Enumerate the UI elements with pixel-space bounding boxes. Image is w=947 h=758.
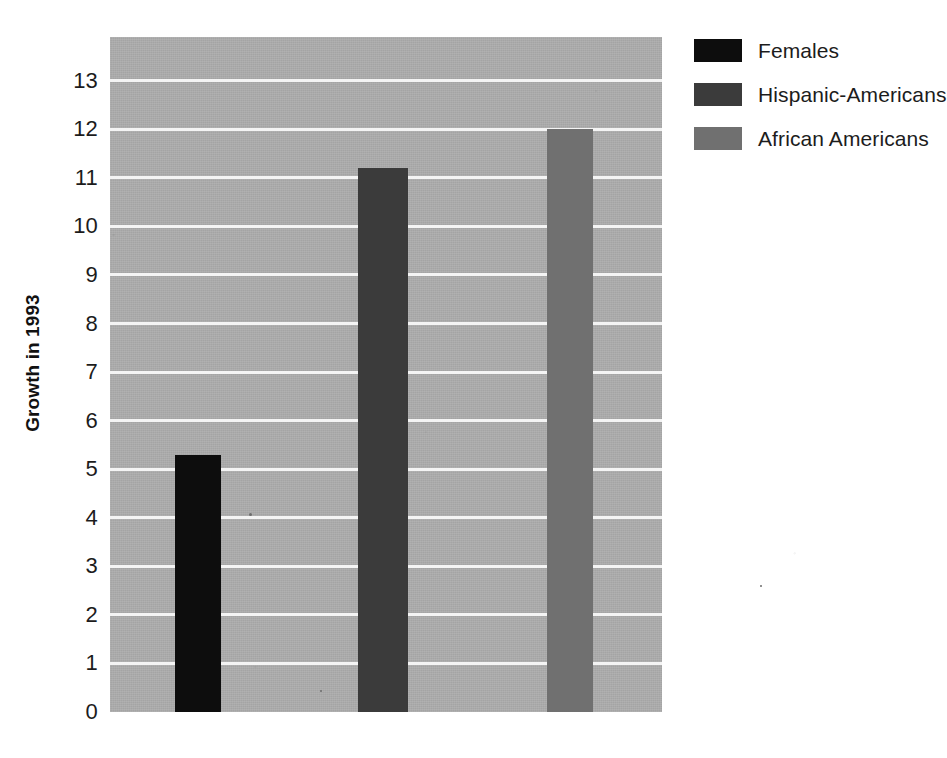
bar-hispanic-americans [358,168,408,712]
plot-area [110,37,662,712]
y-axis-tick-12: 12 [6,118,98,140]
legend-swatch-icon [694,127,742,150]
legend-item-hispanic-americans: Hispanic-Americans [694,72,942,116]
legend-item-females: Females [694,28,942,72]
gridline [110,79,662,82]
y-axis-tick-5: 5 [6,458,98,480]
y-axis-tick-11: 11 [6,167,98,189]
y-axis-tick-9: 9 [6,264,98,286]
y-axis-tick-10: 10 [6,215,98,237]
chart-legend: FemalesHispanic-AmericansAfrican America… [694,28,942,160]
scan-speck [249,513,252,516]
y-axis-tick-7: 7 [6,361,98,383]
legend-item-african-americans: African Americans [694,116,942,160]
y-axis-tick-4: 4 [6,507,98,529]
y-axis-tick-1: 1 [6,652,98,674]
y-axis-tick-0: 0 [6,701,98,723]
legend-label: Females [758,39,839,62]
y-axis-tick-6: 6 [6,410,98,432]
scan-speck [760,585,762,587]
y-axis-tick-8: 8 [6,313,98,335]
bar-african-americans [547,129,593,712]
y-axis-tick-2: 2 [6,604,98,626]
y-axis-tick-labels: 012345678910111213 [0,37,98,712]
scan-speck [320,690,322,692]
y-axis-tick-13: 13 [6,70,98,92]
legend-swatch-icon [694,39,742,62]
bar-females [175,455,221,712]
y-axis-tick-3: 3 [6,555,98,577]
legend-swatch-icon [694,83,742,106]
legend-label: Hispanic-Americans [758,83,947,106]
legend-label: African Americans [758,127,929,150]
